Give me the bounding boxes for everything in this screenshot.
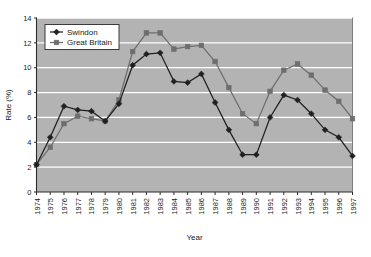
x-tick-label: 1978 bbox=[87, 198, 96, 215]
x-tick-label: 1977 bbox=[74, 198, 83, 215]
x-tick-label: 1986 bbox=[197, 198, 206, 215]
y-tick-label: 4 bbox=[27, 138, 31, 147]
x-tick-label: 1997 bbox=[349, 198, 358, 215]
y-tick-label: 6 bbox=[27, 113, 31, 122]
data-point bbox=[144, 31, 149, 36]
x-tick-label: 1981 bbox=[129, 198, 138, 215]
data-point bbox=[62, 121, 67, 126]
x-tick-label: 1994 bbox=[307, 198, 316, 215]
x-tick-label: 1992 bbox=[280, 198, 289, 215]
data-point bbox=[282, 68, 287, 73]
x-tick-label: 1996 bbox=[335, 198, 344, 215]
x-tick-label: 1979 bbox=[101, 198, 110, 215]
data-point bbox=[48, 145, 53, 150]
legend-marker-icon bbox=[54, 40, 59, 45]
y-axis-title: Rate (%) bbox=[4, 89, 13, 121]
x-tick-label: 1990 bbox=[252, 198, 261, 215]
data-point bbox=[350, 116, 355, 121]
y-tick-label: 14 bbox=[23, 14, 31, 23]
x-tick-label: 1983 bbox=[156, 198, 165, 215]
data-point bbox=[240, 111, 245, 116]
chart-container: 0246810121419741975197619771978197919801… bbox=[0, 0, 371, 257]
y-tick-label: 12 bbox=[23, 39, 31, 48]
data-point bbox=[254, 121, 259, 126]
x-tick-label: 1982 bbox=[142, 198, 151, 215]
line-chart: 0246810121419741975197619771978197919801… bbox=[0, 0, 371, 257]
data-point bbox=[89, 116, 94, 121]
x-tick-label: 1976 bbox=[60, 198, 69, 215]
data-point bbox=[185, 44, 190, 49]
legend-label: Great Britain bbox=[67, 38, 112, 47]
x-tick-label: 1993 bbox=[294, 198, 303, 215]
x-tick-label: 1974 bbox=[33, 198, 42, 215]
x-tick-label: 1991 bbox=[266, 198, 275, 215]
data-point bbox=[295, 62, 300, 67]
data-point bbox=[323, 88, 328, 93]
x-tick-label: 1995 bbox=[321, 198, 330, 215]
x-tick-label: 1984 bbox=[170, 198, 179, 215]
x-tick-label: 1975 bbox=[46, 198, 55, 215]
data-point bbox=[158, 31, 163, 36]
legend-label: Swindon bbox=[67, 28, 98, 37]
x-tick-label: 1988 bbox=[225, 198, 234, 215]
x-axis-ticks: 1974197519761977197819791980198119821983… bbox=[33, 192, 358, 215]
y-axis-ticks: 02468101214 bbox=[23, 14, 36, 197]
data-point bbox=[213, 59, 218, 64]
x-tick-label: 1987 bbox=[211, 198, 220, 215]
legend: SwindonGreat Britain bbox=[45, 25, 119, 50]
data-point bbox=[75, 114, 80, 119]
x-tick-label: 1989 bbox=[239, 198, 248, 215]
x-tick-label: 1985 bbox=[184, 198, 193, 215]
data-point bbox=[130, 49, 135, 54]
y-tick-label: 0 bbox=[27, 188, 31, 197]
data-point bbox=[199, 43, 204, 48]
x-tick-label: 1980 bbox=[115, 198, 124, 215]
x-axis-title: Year bbox=[186, 233, 203, 242]
data-point bbox=[172, 47, 177, 52]
data-point bbox=[309, 73, 314, 78]
y-tick-label: 8 bbox=[27, 88, 31, 97]
y-tick-label: 2 bbox=[27, 163, 31, 172]
data-point bbox=[268, 89, 273, 94]
data-point bbox=[227, 85, 232, 90]
y-tick-label: 10 bbox=[23, 63, 31, 72]
data-point bbox=[336, 99, 341, 104]
